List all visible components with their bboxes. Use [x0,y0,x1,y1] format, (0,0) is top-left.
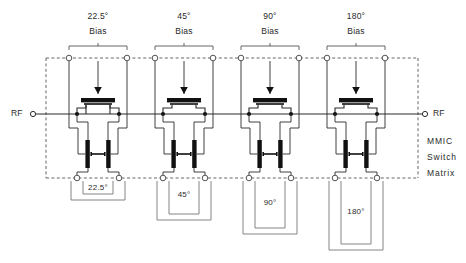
rf-port-right-terminal [422,111,427,116]
bias-terminal-90-a [238,55,244,61]
ground-terminal-45-b [202,175,208,181]
rf-port-right-label: RF [433,109,445,118]
series-fet-gate-22p5 [81,98,115,102]
delay-label-22p5: 22.5° [88,184,108,192]
ground-terminal-90-b [288,175,294,181]
shunt-fet-gate-45-b [192,140,196,168]
series-fet-gate-90 [253,98,287,102]
shunt-fet-gate-45-a [171,140,175,168]
bias-terminal-180-b [382,55,388,61]
ground-terminal-180-a [332,175,338,181]
shunt-fet-gate-180-a [343,140,347,168]
brace-90 [241,43,299,50]
stage-90-circuit [238,55,302,234]
bias-terminal-22p5-b [124,55,130,61]
bias-label-deg-90: 90° [263,12,276,21]
bias-label-deg-180: 180° [347,12,365,21]
bias-label-word-22p5: Bias [89,27,106,36]
bias-label-word-90: Bias [261,27,278,36]
brace-22p5 [69,43,127,50]
mmic-block-label-line-2: Switch [427,153,457,162]
delay-label-45: 45° [178,191,191,199]
rf-port-left-terminal [30,111,35,116]
bias-terminal-22p5-a [66,55,72,61]
mmic-block-label-line-3: Matrix [427,169,455,178]
ground-terminal-22p5-a [74,175,80,181]
bias-label-deg-45: 45° [177,12,190,21]
shunt-fet-gate-90-a [257,140,261,168]
delay-line-outer-90 [243,181,297,234]
stage-180-circuit [324,55,388,250]
bias-terminal-45-b [210,55,216,61]
bias-group-braces [69,43,385,50]
bias-label-word-180: Bias [347,27,364,36]
bias-terminal-45-a [152,55,158,61]
series-fet-gate-45 [167,98,201,102]
mmic-boundary-dashed [46,58,418,178]
bias-terminal-180-a [324,55,330,61]
ground-terminal-180-b [374,175,380,181]
shunt-fet-gate-180-b [364,140,368,168]
mmic-block-label-line-1: MMIC [427,137,453,146]
ground-terminal-22p5-b [116,175,122,181]
bias-label-deg-22p5: 22.5° [88,12,109,21]
figure-canvas: RF RF 22.5° Bias 45° Bias 90° Bias 180° … [0,0,466,263]
bias-terminal-90-b [296,55,302,61]
shunt-fet-gate-22p5-b [106,140,110,168]
circuit-schematic [0,0,466,263]
brace-180 [327,43,385,50]
shunt-fet-gate-90-b [278,140,282,168]
rf-port-left-label: RF [11,109,23,118]
bias-label-word-45: Bias [175,27,192,36]
shunt-fet-gate-22p5-a [85,140,89,168]
stage-22p5-circuit [66,55,130,200]
ground-terminal-90-a [246,175,252,181]
brace-45 [155,43,213,50]
series-fet-gate-180 [339,98,373,102]
ground-terminal-45-a [160,175,166,181]
delay-label-180: 180° [347,208,364,216]
delay-label-90: 90° [264,199,277,207]
